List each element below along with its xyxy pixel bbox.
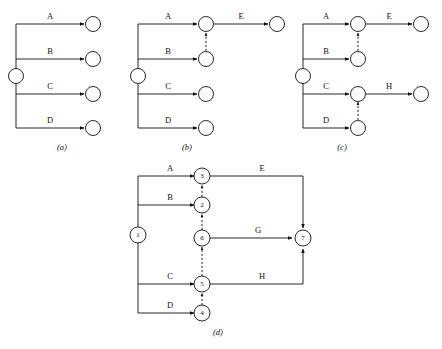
diagram-c-start-node	[296, 69, 311, 84]
diagram-d-edge-H	[210, 249, 303, 284]
diagram-a-caption: (a)	[57, 142, 67, 152]
diagram-b-node-D-end	[199, 121, 214, 136]
diagram-d-label-C: C	[167, 271, 173, 281]
diagram-b: A B C D E (b)	[131, 11, 285, 152]
diagram-a: A B C D (a)	[9, 11, 101, 152]
diagram-b-start-node	[131, 69, 146, 84]
diagram-a-node-B-end	[86, 52, 101, 67]
diagram-c-label-A: A	[323, 11, 330, 21]
diagram-b-node-E-end	[270, 17, 285, 32]
diagram-d-node-4-label: 4	[200, 309, 204, 317]
diagram-d-node-5-label: 5	[200, 280, 204, 288]
diagram-c-node-B-end	[351, 52, 366, 67]
diagram-c-node-D-end	[351, 121, 366, 136]
diagram-c-label-B: B	[323, 46, 329, 56]
diagram-b-label-A: A	[165, 11, 172, 21]
diagram-a-label-C: C	[47, 81, 53, 91]
diagram-b-caption: (b)	[182, 142, 192, 152]
diagram-d-label-H: H	[259, 271, 265, 281]
diagram-b-node-B-end	[199, 52, 214, 67]
diagram-d-label-B: B	[167, 192, 173, 202]
bottom-text-strip	[96, 340, 396, 349]
diagram-c-node-H-end	[414, 87, 429, 102]
diagram-b-label-E: E	[238, 11, 243, 21]
diagram-d-node-1-label: 1	[136, 231, 140, 239]
diagram-a-node-D-end	[86, 121, 101, 136]
diagram-d-node-6-label: 6	[200, 234, 204, 242]
diagram-c: A B C D E H (c)	[296, 11, 429, 152]
diagram-d-label-A: A	[167, 163, 174, 173]
network-diagram-svg: A B C D (a) A B C D	[0, 0, 442, 349]
diagram-c-label-D: D	[323, 115, 329, 125]
diagram-a-label-D: D	[47, 115, 53, 125]
diagram-d-caption: (d)	[213, 327, 223, 337]
diagram-b-label-D: D	[165, 115, 171, 125]
diagram-d-node-2-label: 2	[200, 201, 204, 209]
diagram-d-label-G: G	[255, 225, 261, 235]
diagram-d-edge-E	[210, 176, 303, 228]
diagram-a-node-C-end	[86, 87, 101, 102]
diagram-d: 1 3 2 6 5 4 7 A B C D E G H (d)	[130, 163, 311, 337]
diagram-d-label-D: D	[167, 300, 173, 310]
diagram-c-node-A-end	[351, 17, 366, 32]
diagram-b-label-B: B	[165, 46, 171, 56]
diagram-a-start-node	[9, 69, 24, 84]
diagram-d-node-3-label: 3	[200, 172, 204, 180]
diagram-c-label-C: C	[323, 81, 329, 91]
diagram-d-label-E: E	[259, 163, 264, 173]
figure-canvas: A B C D (a) A B C D	[0, 0, 442, 349]
diagram-d-node-7-label: 7	[301, 234, 305, 242]
diagram-a-label-A: A	[47, 11, 54, 21]
diagram-c-node-E-end	[414, 17, 429, 32]
diagram-c-node-C-end	[351, 87, 366, 102]
diagram-a-label-B: B	[47, 46, 53, 56]
diagram-a-node-A-end	[86, 17, 101, 32]
diagram-b-node-C-end	[199, 87, 214, 102]
diagram-b-node-A-end	[199, 17, 214, 32]
diagram-b-label-C: C	[165, 81, 171, 91]
diagram-c-label-E: E	[386, 11, 391, 21]
diagram-c-caption: (c)	[337, 142, 347, 152]
diagram-c-label-H: H	[386, 81, 392, 91]
